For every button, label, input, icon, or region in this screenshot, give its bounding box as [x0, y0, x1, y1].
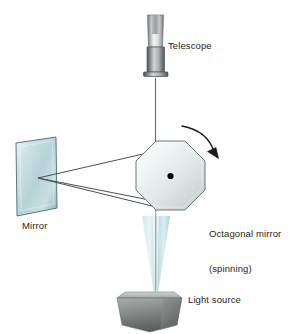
- label-octagonal-mirror-line2: (spinning): [209, 263, 281, 275]
- telescope-flange: [144, 72, 169, 77]
- telescope-bore: [152, 15, 160, 34]
- light-beam: [142, 210, 170, 301]
- label-octagonal-mirror: Octagonal mirror (spinning): [209, 205, 281, 297]
- telescope: [144, 15, 169, 77]
- flat-mirror: [16, 137, 57, 216]
- telescope-collar: [147, 47, 165, 72]
- light-source-top-face: [117, 292, 182, 298]
- label-octagonal-mirror-line1: Octagonal mirror: [209, 228, 281, 240]
- octagon-pivot-dot: [167, 173, 173, 179]
- octagonal-mirror: [136, 141, 205, 210]
- flat-mirror-face: [16, 137, 57, 216]
- light-source-side-face: [160, 298, 182, 330]
- diagram-canvas: Telescope Mirror Octagonal mirror (spinn…: [0, 0, 306, 334]
- label-telescope: Telescope: [168, 40, 212, 52]
- label-mirror: Mirror: [22, 220, 47, 232]
- label-light-source: Light source: [188, 294, 241, 306]
- light-source: [117, 292, 182, 332]
